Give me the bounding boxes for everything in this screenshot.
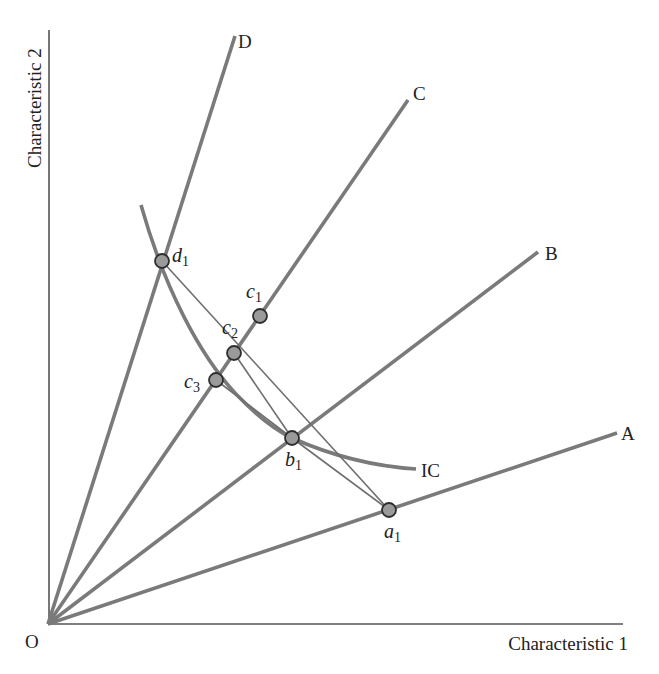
ray-label-b: B: [545, 243, 558, 264]
characteristics-diagram: Characteristic 1 Characteristic 2 O ABCD…: [0, 0, 659, 674]
point-c3: [209, 373, 223, 387]
ray-label-a: A: [621, 423, 635, 444]
point-c2: [227, 346, 241, 360]
axes: Characteristic 1 Characteristic 2 O: [24, 30, 628, 654]
ray-label-c: C: [413, 83, 426, 104]
point-c1: [253, 309, 267, 323]
y-axis-label: Characteristic 2: [24, 48, 45, 168]
point-a1: [382, 503, 396, 517]
ray-label-d: D: [238, 31, 252, 52]
line-c2-b1: [234, 353, 292, 438]
point-label-c3: c3: [184, 370, 200, 395]
origin-label: O: [25, 631, 39, 652]
point-label-d1: d1: [172, 244, 189, 269]
line-c3-b1: [216, 380, 292, 438]
diagram-canvas: Characteristic 1 Characteristic 2 O ABCD…: [0, 0, 659, 674]
ray-a: [48, 433, 617, 624]
x-axis-label: Characteristic 1: [508, 633, 628, 654]
rays: ABCD: [48, 31, 635, 624]
point-d1: [155, 254, 169, 268]
point-label-c1: c1: [246, 280, 262, 305]
line-b1-a1: [292, 438, 389, 510]
point-label-b1: b1: [285, 448, 302, 473]
indifference-curve-label: IC: [421, 460, 440, 481]
point-b1: [285, 431, 299, 445]
ray-d: [48, 36, 235, 624]
point-label-a1: a1: [384, 520, 401, 545]
ray-c: [48, 100, 408, 624]
point-label-c2: c2: [222, 316, 238, 341]
